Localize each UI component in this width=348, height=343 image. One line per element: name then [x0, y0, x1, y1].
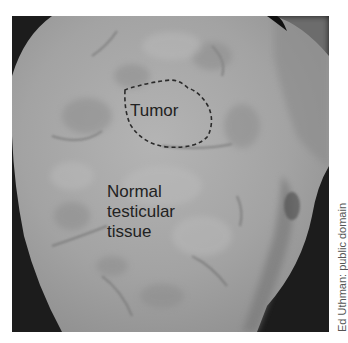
normal-tissue-label-line2: testicular [107, 202, 207, 222]
specimen-illustration [12, 16, 329, 332]
specimen-photo [12, 16, 329, 332]
normal-tissue-label-line3: tissue [107, 222, 207, 242]
image-credit: Ed Uthman: public domain [336, 203, 348, 332]
normal-tissue-label: Normal testicular tissue [107, 182, 207, 242]
normal-tissue-label-line1: Normal [107, 182, 207, 202]
tumor-label: Tumor [130, 101, 179, 121]
